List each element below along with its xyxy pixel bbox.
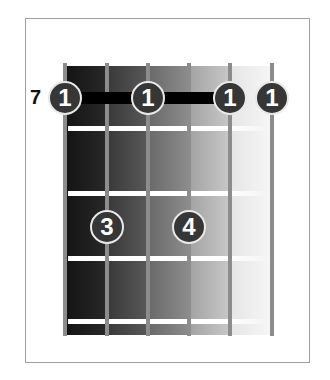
finger-marker-string6-fret1: 1 (255, 81, 289, 115)
finger-marker-string5-fret1: 1 (213, 81, 247, 115)
fret-line-3 (68, 256, 268, 261)
fret-line-4 (68, 319, 268, 324)
finger-marker-string2-fret2: 3 (90, 210, 124, 244)
finger-marker-string4-fret2: 4 (172, 210, 206, 244)
fret-line-1 (68, 126, 268, 131)
starting-fret-label: 7 (30, 86, 41, 109)
fret-line-2 (68, 191, 268, 196)
finger-marker-string3-fret1: 1 (131, 81, 165, 115)
finger-marker-string1-fret1: 1 (48, 81, 82, 115)
